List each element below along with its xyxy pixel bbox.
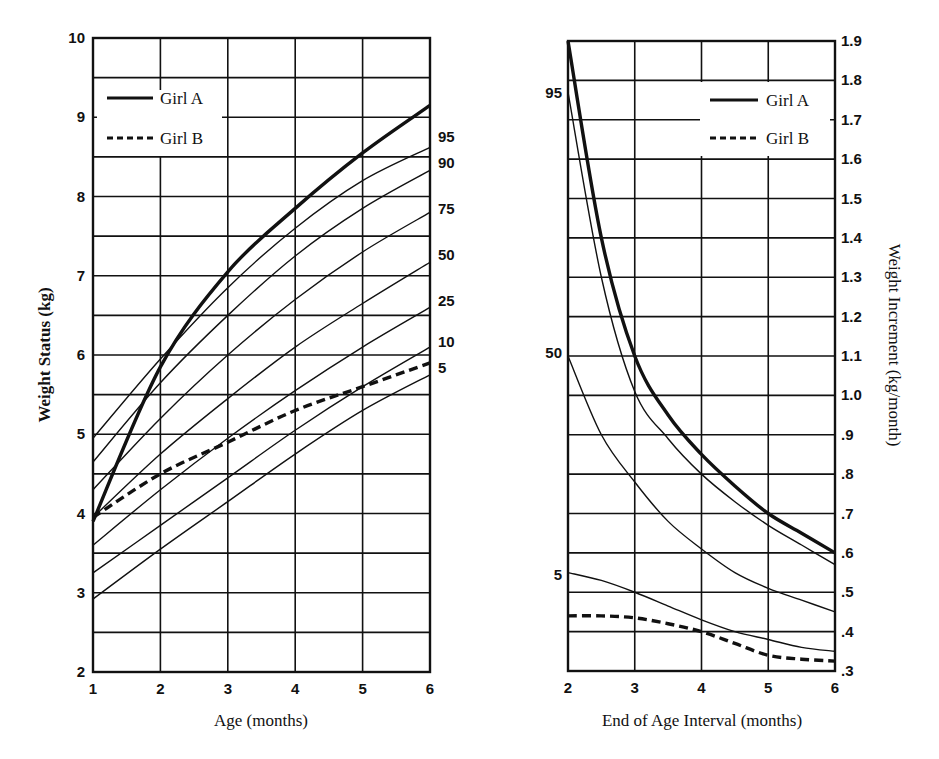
x-tick-label: 3 <box>631 679 639 696</box>
y-tick-label: 1.9 <box>841 32 862 49</box>
y-tick-label: .9 <box>841 426 854 443</box>
left-x-axis-title: Age (months) <box>214 711 308 730</box>
y-tick-label: 1.3 <box>841 268 862 285</box>
y-tick-label: .5 <box>841 583 854 600</box>
x-tick-label: 6 <box>831 679 839 696</box>
y-tick-label: 1.6 <box>841 150 862 167</box>
percentile-label: 75 <box>438 200 455 217</box>
y-tick-label: .3 <box>841 662 854 679</box>
weight-increment-chart: 23456.3.4.5.6.7.8.91.01.11.21.31.41.51.6… <box>545 32 904 730</box>
growth-chart-figure: 1234562345678910 9590755025105 Girl A Gi… <box>0 0 939 759</box>
series-line-75th-percentile <box>93 212 430 489</box>
right-percentile-labels: 95505 <box>545 84 562 583</box>
legend-girl-a-label: Girl A <box>160 89 204 108</box>
y-tick-label: 1.7 <box>841 111 862 128</box>
y-tick-label: 7 <box>77 267 85 284</box>
chart-canvas: 1234562345678910 9590755025105 Girl A Gi… <box>0 0 939 759</box>
percentile-label: 95 <box>545 84 562 101</box>
left-y-axis-title: Weight Status (kg) <box>35 287 54 422</box>
legend-girl-b-label: Girl B <box>766 129 809 148</box>
series-line-25th-percentile <box>93 307 430 545</box>
y-tick-label: 10 <box>68 29 85 46</box>
x-tick-label: 4 <box>291 680 300 697</box>
x-tick-label: 2 <box>564 679 572 696</box>
percentile-label: 90 <box>438 154 455 171</box>
percentile-label: 25 <box>438 292 455 309</box>
weight-status-chart: 1234562345678910 9590755025105 Girl A Gi… <box>35 29 455 730</box>
percentile-label: 50 <box>438 246 455 263</box>
percentile-label: 95 <box>438 128 455 145</box>
y-tick-label: 1.2 <box>841 308 862 325</box>
left-series <box>93 105 430 599</box>
x-tick-label: 5 <box>358 680 366 697</box>
y-tick-label: 4 <box>77 505 86 522</box>
series-line-girl-a <box>93 105 430 521</box>
series-line-girl-b <box>93 363 430 518</box>
y-tick-label: 6 <box>77 346 85 363</box>
y-tick-label: 1.1 <box>841 347 862 364</box>
x-tick-label: 4 <box>697 679 706 696</box>
right-x-axis-title: End of Age Interval (months) <box>602 711 802 730</box>
right-legend: Girl A Girl B <box>700 82 830 156</box>
y-tick-label: 2 <box>77 663 85 680</box>
percentile-label: 5 <box>554 566 562 583</box>
y-tick-label: .4 <box>841 623 854 640</box>
y-tick-label: .8 <box>841 465 854 482</box>
x-tick-label: 2 <box>156 680 164 697</box>
series-line-50th-percentile <box>93 262 430 517</box>
x-tick-label: 5 <box>764 679 772 696</box>
y-tick-label: 3 <box>77 584 85 601</box>
x-tick-label: 3 <box>224 680 232 697</box>
y-tick-label: .6 <box>841 544 854 561</box>
y-tick-label: 1.8 <box>841 71 862 88</box>
series-line-10th-percentile <box>93 347 430 573</box>
left-percentile-labels: 9590755025105 <box>438 128 455 376</box>
legend-girl-b-label: Girl B <box>160 129 203 148</box>
y-tick-label: 1.0 <box>841 386 862 403</box>
y-tick-label: 1.4 <box>841 229 863 246</box>
x-tick-label: 1 <box>89 680 97 697</box>
y-tick-label: 5 <box>77 425 85 442</box>
right-y-axis-title: Weight Increment (kg/month) <box>885 244 904 447</box>
series-line-5th-percentile <box>93 375 430 599</box>
y-tick-label: .7 <box>841 505 854 522</box>
percentile-label: 5 <box>438 359 446 376</box>
y-tick-label: 8 <box>77 188 85 205</box>
percentile-label: 50 <box>545 344 562 361</box>
y-tick-label: 9 <box>77 108 85 125</box>
legend-girl-a-label: Girl A <box>766 91 810 110</box>
percentile-label: 10 <box>438 333 455 350</box>
x-tick-label: 6 <box>426 680 434 697</box>
y-tick-label: 1.5 <box>841 190 862 207</box>
right-legend-bg <box>700 82 830 156</box>
left-legend: Girl A Girl B <box>97 89 222 156</box>
